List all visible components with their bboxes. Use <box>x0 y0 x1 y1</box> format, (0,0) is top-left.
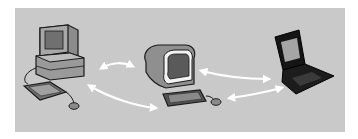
arrow-mouse-laptop <box>230 88 281 98</box>
all-in-one-computer-icon <box>145 45 221 106</box>
arrow-desktop-terminal <box>102 63 132 68</box>
arrow-desktop-keyboard <box>90 86 155 108</box>
laptop-computer-icon <box>275 30 334 94</box>
desktop-computer-icon <box>24 25 84 109</box>
arrow-terminal-laptop <box>202 71 268 79</box>
network-diagram <box>0 0 358 139</box>
